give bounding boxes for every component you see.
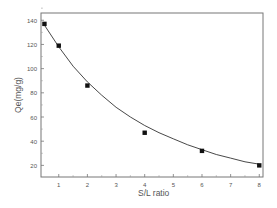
plot-frame [41, 13, 263, 177]
y-tick-label: 100 [27, 66, 38, 72]
data-points [42, 22, 261, 168]
data-point [142, 131, 146, 135]
data-point [200, 149, 204, 153]
x-tick-label: 7 [229, 182, 233, 188]
chart: 20406080100120140 12345678 S/L ratio Qe(… [0, 0, 277, 208]
chart-svg: 20406080100120140 12345678 [0, 0, 277, 208]
y-tick-label: 20 [30, 163, 37, 169]
y-tick-label: 40 [30, 139, 37, 145]
y-tick-label: 80 [30, 90, 37, 96]
x-tick-label: 2 [86, 182, 90, 188]
data-point [57, 43, 61, 47]
x-tick-label: 5 [172, 182, 176, 188]
x-tick-label: 8 [258, 182, 262, 188]
y-tick-label: 140 [27, 18, 38, 24]
x-tick-label: 6 [200, 182, 204, 188]
x-tick-label: 1 [57, 182, 61, 188]
fit-curve [44, 25, 259, 164]
x-tick-label: 3 [114, 182, 118, 188]
y-axis-label: Qe(mg/g) [13, 65, 23, 125]
x-axis-ticks: 12345678 [57, 174, 262, 188]
data-point [257, 163, 261, 167]
x-axis-label: S/L ratio [138, 188, 169, 198]
y-tick-label: 120 [27, 42, 38, 48]
data-point [42, 22, 46, 26]
y-tick-label: 60 [30, 115, 37, 121]
data-point [85, 83, 89, 87]
